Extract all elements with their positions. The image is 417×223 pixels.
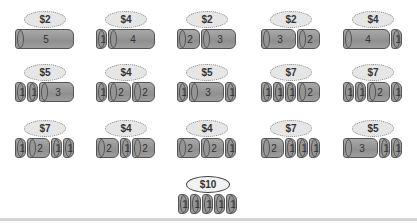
rod: 14 — [96, 29, 156, 49]
piece-length-label: 1 — [262, 87, 271, 98]
rod: 131 — [177, 82, 237, 102]
rod: 311 — [343, 138, 403, 158]
piece-length-label: 2 — [268, 143, 277, 154]
rod-piece: 2 — [132, 138, 155, 158]
rod-piece: 1 — [178, 194, 189, 214]
rod-piece: 2 — [177, 138, 200, 158]
cut-option: $414 — [87, 11, 165, 61]
rod-piece: 3 — [201, 29, 236, 49]
piece-length-label: 2 — [115, 87, 124, 98]
piece-length-label: 1 — [286, 143, 295, 154]
rod: 2111 — [261, 138, 321, 158]
cut-option: $4212 — [87, 120, 165, 170]
rod: 5 — [15, 29, 75, 49]
rod-piece: 1 — [51, 138, 62, 158]
rod-piece: 1 — [15, 82, 26, 102]
piece-length-label: 3 — [214, 34, 223, 45]
rod-piece: 1 — [285, 82, 296, 102]
cut-option: $72111 — [252, 120, 330, 170]
price-bubble: $2 — [270, 11, 312, 28]
cut-option: $232 — [252, 11, 330, 61]
rod-piece: 1 — [391, 29, 402, 49]
piece-length-label: 1 — [215, 199, 224, 210]
price-bubble: $5 — [24, 64, 66, 81]
rod-piece: 1 — [27, 82, 38, 102]
piece-length-label: 1 — [392, 143, 401, 154]
rod-piece: 1 — [391, 138, 402, 158]
rod-piece: 1 — [202, 194, 213, 214]
piece-length-label: 1 — [52, 143, 61, 154]
piece-length-label: 1 — [28, 87, 37, 98]
piece-length-label: 1 — [298, 143, 307, 154]
rod-piece: 1 — [96, 82, 107, 102]
cut-option: $5131 — [168, 64, 246, 114]
best-price-bubble: $10 — [186, 176, 230, 193]
price-bubble: $5 — [352, 120, 394, 137]
piece-length-label: 2 — [208, 143, 217, 154]
bottom-divider — [0, 218, 417, 221]
rod: 113 — [15, 82, 75, 102]
rod-piece: 3 — [343, 138, 378, 158]
price-bubble: $7 — [270, 64, 312, 81]
rod-piece: 2 — [27, 138, 50, 158]
piece-length-label: 1 — [97, 34, 106, 45]
price-bubble: $5 — [186, 64, 228, 81]
piece-length-label: 1 — [356, 87, 365, 98]
rod-piece: 2 — [132, 82, 155, 102]
piece-length-label: 1 — [226, 143, 235, 154]
price-bubble: $2 — [24, 11, 66, 28]
price-bubble: $7 — [24, 120, 66, 137]
rod-piece: 2 — [96, 138, 119, 158]
rod-piece: 1 — [214, 194, 225, 214]
piece-length-label: 2 — [103, 143, 112, 154]
piece-length-label: 1 — [191, 199, 200, 210]
piece-length-label: 4 — [127, 34, 136, 45]
piece-length-label: 2 — [304, 87, 313, 98]
piece-length-label: 2 — [34, 143, 43, 154]
piece-length-label: 1 — [179, 199, 188, 210]
rod-piece: 1 — [391, 82, 402, 102]
price-bubble: $7 — [352, 64, 394, 81]
price-bubble: $4 — [105, 120, 147, 137]
rod-piece: 1 — [309, 138, 320, 158]
cut-option: $441 — [334, 11, 412, 61]
cut-option: $1011111 — [169, 176, 247, 223]
cut-option: $223 — [168, 11, 246, 61]
rod-piece: 1 — [261, 82, 272, 102]
piece-length-label: 1 — [178, 87, 187, 98]
piece-length-label: 1 — [392, 87, 401, 98]
rod: 1112 — [261, 82, 321, 102]
rod: 1121 — [343, 82, 403, 102]
piece-length-label: 1 — [97, 87, 106, 98]
rod-piece: 1 — [297, 138, 308, 158]
rod-piece: 1 — [15, 138, 26, 158]
rod-piece: 1 — [190, 194, 201, 214]
rod-piece: 1 — [63, 138, 74, 158]
rod: 1211 — [15, 138, 75, 158]
price-bubble: $4 — [105, 11, 147, 28]
price-bubble: $4 — [186, 120, 228, 137]
cut-option: $4122 — [87, 64, 165, 114]
rod: 11111 — [178, 194, 238, 214]
rod-piece: 5 — [15, 29, 74, 49]
piece-length-label: 2 — [304, 34, 313, 45]
rod: 32 — [261, 29, 321, 49]
piece-length-label: 3 — [52, 87, 61, 98]
rod-piece: 1 — [285, 138, 296, 158]
piece-length-label: 1 — [344, 87, 353, 98]
piece-length-label: 3 — [202, 87, 211, 98]
piece-length-label: 1 — [392, 34, 401, 45]
rod-piece: 1 — [225, 138, 236, 158]
rod-piece: 3 — [189, 82, 224, 102]
rod-piece: 2 — [367, 82, 390, 102]
rod-piece: 4 — [108, 29, 155, 49]
rod-piece: 2 — [297, 82, 320, 102]
rod: 122 — [96, 82, 156, 102]
price-bubble: $4 — [105, 64, 147, 81]
rod-piece: 1 — [96, 29, 107, 49]
piece-length-label: 2 — [139, 87, 148, 98]
cut-option: $71211 — [6, 120, 84, 170]
piece-length-label: 3 — [274, 34, 283, 45]
piece-length-label: 2 — [374, 87, 383, 98]
rod-piece: 1 — [355, 82, 366, 102]
